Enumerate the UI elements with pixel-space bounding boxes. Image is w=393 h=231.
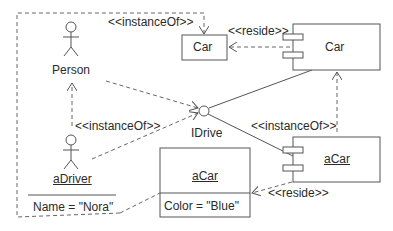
adriver-acar-link	[120, 193, 160, 213]
person-label: Person	[52, 64, 90, 76]
instanceof-label-left: <<instanceOf>>	[75, 120, 160, 132]
instanceof-label-top: <<instanceOf>>	[108, 16, 193, 28]
acar-object-attribute: Color = "Blue"	[164, 200, 239, 212]
person-uses-idrive	[106, 81, 198, 108]
car-class-label: Car	[193, 41, 212, 53]
car-realizes-idrive	[209, 70, 312, 108]
idrive-interface-icon	[199, 106, 209, 116]
idrive-label: IDrive	[191, 127, 222, 139]
instanceof-dependency-top	[17, 13, 204, 217]
acar-object-label: aCar	[192, 170, 218, 182]
acar-component-label: aCar	[324, 153, 350, 165]
adriver-actor-icon	[63, 135, 79, 169]
reside-label-bottom: <<reside>>	[268, 187, 329, 199]
adriver-label: aDriver	[53, 173, 92, 185]
car-component-label: Car	[325, 41, 344, 53]
instanceof-label-right: <<instanceOf>>	[251, 120, 336, 132]
reside-label-top: <<reside>>	[228, 25, 289, 37]
person-actor-icon	[63, 22, 79, 56]
diagram-canvas	[0, 0, 393, 231]
adriver-attribute: Name = "Nora"	[33, 201, 113, 213]
